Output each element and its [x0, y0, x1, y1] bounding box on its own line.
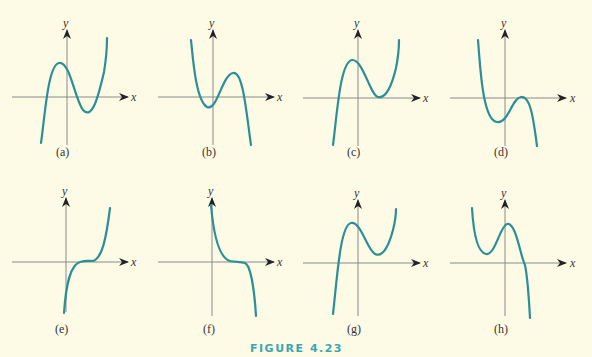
y-axis-label: y	[208, 16, 215, 30]
cubic-curve	[41, 38, 107, 143]
x-axis-label: x	[130, 255, 137, 269]
x-axis-label: x	[422, 256, 429, 270]
panel-c: x y (c)	[303, 16, 429, 159]
panel-label: (f)	[203, 322, 215, 336]
cubic-curve	[478, 40, 537, 146]
panel-label: (c)	[347, 145, 360, 159]
figure-caption: FIGURE 4.23	[250, 342, 343, 355]
y-axis-label: y	[62, 16, 69, 30]
x-axis-label: x	[569, 256, 576, 270]
panel-h: x y (h)	[450, 186, 576, 336]
x-axis-label: x	[569, 91, 576, 105]
y-axis-label: y	[353, 186, 360, 200]
panel-f: x y (f)	[158, 184, 283, 336]
panel-e: x y (e)	[12, 184, 137, 336]
x-axis-label: x	[130, 90, 137, 104]
cubic-curve	[191, 40, 251, 145]
x-axis-label: x	[276, 255, 283, 269]
panel-b: x y (b)	[158, 16, 283, 159]
panel-d: x y (d)	[450, 16, 576, 159]
x-axis-label: x	[276, 90, 283, 104]
figure-canvas: x y (a) x y (b) x y (c) x y (d) x y (e)	[0, 0, 592, 357]
panel-label: (a)	[56, 145, 69, 159]
y-axis-label: y	[500, 186, 507, 200]
panel-label: (d)	[494, 145, 508, 159]
panel-label: (b)	[202, 145, 216, 159]
panel-label: (g)	[347, 322, 361, 336]
y-axis-label: y	[500, 16, 507, 30]
y-axis-label: y	[353, 16, 360, 30]
panel-label: (e)	[55, 322, 68, 336]
panel-label: (h)	[494, 322, 508, 336]
cubic-curve	[64, 208, 110, 313]
cubic-curve	[333, 40, 399, 145]
panel-a: x y (a)	[12, 16, 137, 159]
y-axis-label: y	[61, 184, 68, 198]
cubic-curve	[333, 209, 396, 314]
y-axis-label: y	[207, 184, 214, 198]
x-axis-label: x	[422, 91, 429, 105]
panel-g: x y (g)	[303, 186, 429, 336]
cubic-curve	[211, 205, 256, 316]
